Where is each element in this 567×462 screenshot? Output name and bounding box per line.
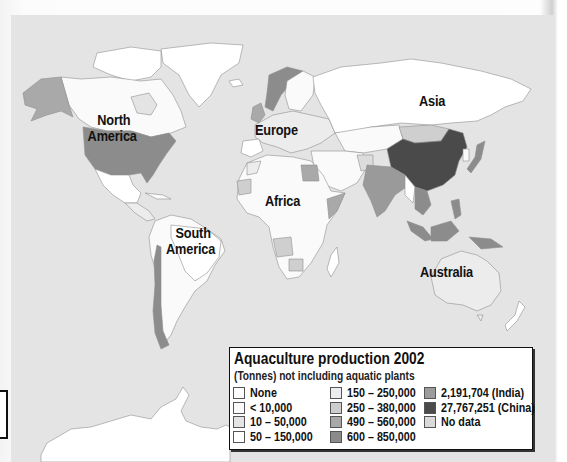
legend-column-3: 2,191,704 (India) 27,767,251 (China) No … [424, 386, 550, 430]
legend-item-250-380000: 250 – 380,000 [330, 401, 427, 416]
label-north-america-line2: America [88, 128, 137, 144]
swatch-490-560000 [330, 416, 342, 428]
swatch-lt10000 [233, 402, 245, 414]
label-asia: Asia [419, 93, 445, 109]
swatch-china [424, 402, 436, 414]
legend-item-no-data: No data [424, 415, 550, 430]
swatch-150-250000 [330, 387, 342, 399]
iceland [229, 79, 243, 87]
botswana [289, 259, 303, 271]
japan [467, 141, 485, 173]
label-south-america-line2: America [166, 241, 215, 257]
thailand-vietnam [415, 187, 431, 215]
java-borneo [431, 221, 459, 241]
new-zealand [505, 301, 525, 331]
legend-column-2: 150 – 250,000 250 – 380,000 490 – 560,00… [330, 386, 427, 444]
label-africa: Africa [265, 193, 300, 209]
antarctica [41, 387, 230, 462]
legend-item-china: 27,767,251 (China) [424, 401, 550, 416]
central-america [125, 203, 155, 221]
egypt [301, 165, 319, 181]
cuba [145, 193, 171, 199]
label-south-america: South America [166, 225, 215, 257]
legend-item-150-250000: 150 – 250,000 [330, 386, 427, 401]
label-australia: Australia [420, 264, 473, 280]
legend: Aquaculture production 2002 (Tonnes) not… [229, 347, 533, 450]
swatch-none [233, 387, 245, 399]
sumatra [407, 221, 433, 241]
page-edge-bracket [0, 390, 8, 439]
philippines [451, 199, 461, 219]
iberia [241, 139, 263, 157]
swatch-10-50000 [233, 416, 245, 428]
tasmania [477, 315, 483, 321]
label-north-america: North America [91, 112, 137, 144]
swatch-no-data [424, 416, 436, 428]
label-north-america-line1: North [91, 112, 137, 128]
arctic-islands [93, 47, 161, 81]
label-south-america-line1: South [171, 225, 215, 241]
legend-item-india: 2,191,704 (India) [424, 386, 550, 401]
swatch-250-380000 [330, 402, 342, 414]
swatch-india [424, 387, 436, 399]
legend-item-none: None [233, 386, 323, 401]
label-europe: Europe [255, 122, 298, 138]
new-guinea [469, 237, 503, 249]
legend-item-50-150000: 50 – 150,000 [233, 430, 323, 445]
legend-column-1: None < 10,000 10 – 50,000 50 – 150,000 [233, 386, 323, 444]
legend-title: Aquaculture production 2002 [234, 350, 424, 368]
swatch-50-150000 [233, 431, 245, 443]
legend-item-490-560000: 490 – 560,000 [330, 415, 427, 430]
western-sahara [237, 179, 251, 195]
korea [463, 149, 469, 161]
madagascar [327, 247, 339, 277]
legend-item-lt10000: < 10,000 [233, 401, 323, 416]
swatch-600-850000 [330, 431, 342, 443]
legend-item-10-50000: 10 – 50,000 [233, 415, 323, 430]
uk [251, 103, 265, 123]
legend-item-600-850000: 600 – 850,000 [330, 430, 427, 445]
australia [431, 251, 501, 311]
legend-subtitle: (Tonnes) not including aquatic plants [234, 369, 415, 383]
